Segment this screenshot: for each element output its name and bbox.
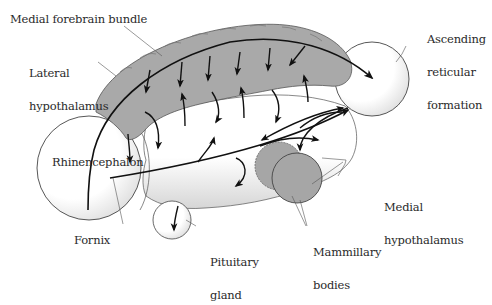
label-line: gland [210,290,259,301]
label-mammillary-bodies: Mammillary bodies [313,225,381,302]
pituitary-gland-shape [153,201,191,239]
label-pituitary-gland: Pituitary gland [210,235,259,305]
label-line: reticular [427,67,486,78]
label-line: Medial [384,202,463,213]
label-lateral-hypothalamus: Lateral hypothalamus [29,46,108,123]
label-ascending-reticular-formation: Ascending reticular formation [427,12,486,122]
label-fornix: Fornix [74,235,110,246]
label-line: formation [427,100,486,111]
label-line: bodies [313,280,381,291]
label-line: Mammillary [313,247,381,258]
label-medial-hypothalamus: Medial hypothalamus [384,180,463,257]
mammillary-body-front [272,153,322,203]
label-line: hypothalamus [384,235,463,246]
label-medial-forebrain-bundle: Medial forebrain bundle [10,14,147,25]
label-line: Lateral [29,68,108,79]
label-line: Pituitary [210,257,259,268]
label-rhinencephalon: Rhinencephalon [52,157,143,168]
label-line: Ascending [427,34,486,45]
label-line: hypothalamus [29,101,108,112]
